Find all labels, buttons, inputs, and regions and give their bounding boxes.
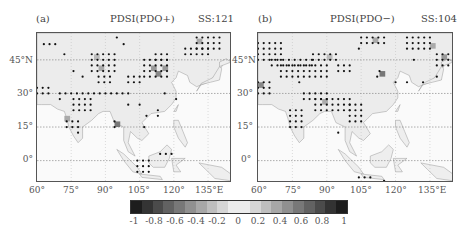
colorbar-segment: [142, 201, 153, 213]
colorbar-segment: [217, 201, 228, 213]
significance-dot: [343, 98, 345, 100]
shaded-cell: [258, 82, 264, 88]
significance-dot: [349, 109, 351, 111]
significance-dot: [423, 36, 425, 38]
colorbar-segment: [315, 201, 326, 213]
significance-dot: [314, 64, 316, 66]
panel-b-label: (b): [258, 13, 272, 24]
significance-dot: [299, 64, 301, 66]
significance-dot: [263, 42, 265, 44]
significance-dot: [320, 104, 322, 106]
colorbar-segment: [293, 201, 304, 213]
significance-dot: [326, 92, 328, 94]
panel-b-ytick-0: 0°: [241, 154, 251, 164]
significance-dot: [349, 70, 351, 72]
significance-dot: [295, 120, 297, 122]
significance-dot: [441, 59, 443, 61]
significance-dot: [372, 42, 374, 44]
significance-dot: [406, 48, 408, 50]
significance-dot: [349, 115, 351, 117]
colorbar-segment: [325, 201, 336, 213]
significance-dot: [436, 64, 438, 66]
significance-dot: [406, 36, 408, 38]
significance-dot: [303, 76, 305, 78]
significance-dot: [280, 70, 282, 72]
significance-dot: [331, 104, 333, 106]
significance-dot: [289, 120, 291, 122]
significance-dot: [312, 59, 314, 61]
panel-b-ytick-45: 45°N: [232, 55, 256, 65]
significance-dot: [280, 64, 282, 66]
significance-dot: [263, 87, 265, 89]
colorbar-label: -0.2: [208, 216, 225, 226]
significance-dot: [436, 59, 438, 61]
colorbar-segment: [250, 201, 261, 213]
significance-dot: [326, 76, 328, 78]
significance-dot: [337, 104, 339, 106]
significance-dot: [383, 42, 385, 44]
significance-dot: [268, 53, 270, 55]
significance-dot: [429, 42, 431, 44]
significance-dot: [376, 76, 378, 78]
significance-dot: [282, 64, 284, 66]
significance-dot: [447, 59, 449, 61]
significance-dot: [276, 59, 278, 61]
significance-dot: [318, 53, 320, 55]
colorbar-segment: [207, 201, 218, 213]
significance-dot: [314, 104, 316, 106]
significance-dot: [441, 53, 443, 55]
significance-dot: [354, 115, 356, 117]
colorbar-label: 0.2: [251, 216, 265, 226]
colorbar-segment: [196, 201, 207, 213]
significance-dot: [320, 109, 322, 111]
significance-dot: [335, 53, 337, 55]
island-outline: [338, 149, 363, 174]
significance-dot: [343, 64, 345, 66]
significance-dot: [436, 76, 438, 78]
significance-dot: [308, 92, 310, 94]
significance-dot: [320, 70, 322, 72]
significance-dot: [308, 98, 310, 100]
significance-dot: [394, 81, 396, 83]
panel-b-xtick-90: 90°: [319, 185, 335, 195]
significance-dot: [326, 70, 328, 72]
significance-dot: [343, 70, 345, 72]
panel-b-ss: SS:104: [421, 13, 457, 24]
significance-dot: [263, 53, 265, 55]
significance-dot: [295, 115, 297, 117]
significance-dot: [298, 81, 300, 83]
significance-dot: [274, 53, 276, 55]
significance-dot: [441, 64, 443, 66]
colorbar-label: -0.4: [187, 216, 204, 226]
significance-dot: [297, 64, 299, 66]
significance-dot: [354, 120, 356, 122]
significance-dot: [308, 76, 310, 78]
panel-b-xtick-135: 135°E: [418, 185, 446, 195]
significance-dot: [417, 48, 419, 50]
significance-dot: [326, 104, 328, 106]
significance-dot: [280, 76, 282, 78]
panel-b: (b) PDSI(PDO−) SS:104 45°N 30° 15° 0° 60…: [0, 0, 240, 200]
significance-dot: [323, 53, 325, 55]
significance-dot: [280, 53, 282, 55]
significance-dot: [263, 81, 265, 83]
significance-dot: [326, 64, 328, 66]
colorbar-segment: [261, 201, 272, 213]
significance-dot: [294, 64, 296, 66]
significance-dot: [423, 42, 425, 44]
significance-dot: [286, 70, 288, 72]
significance-dot: [291, 64, 293, 66]
significance-dot: [377, 42, 379, 44]
significance-dot: [303, 98, 305, 100]
colorbar-segment: [185, 201, 196, 213]
significance-dot: [300, 126, 302, 128]
significance-dot: [447, 53, 449, 55]
significance-dot: [320, 92, 322, 94]
colorbar-segment: [131, 201, 142, 213]
significance-dot: [268, 48, 270, 50]
significance-dot: [423, 48, 425, 50]
panel-b-xtick-75: 75°: [285, 185, 301, 195]
significance-dot: [305, 64, 307, 66]
panel-b-title: PDSI(PDO−): [330, 13, 395, 24]
significance-dot: [299, 59, 301, 61]
